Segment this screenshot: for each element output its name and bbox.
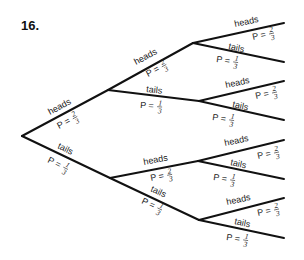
svg-text:heads: heads (223, 133, 250, 148)
prob-th-tails-3: P = 1 3 (212, 169, 236, 189)
label-tt-heads-3: heads (225, 192, 252, 207)
svg-text:3: 3 (157, 106, 163, 115)
svg-text:3: 3 (242, 239, 248, 249)
label-th-heads-3: heads (223, 133, 250, 148)
svg-text:P =: P = (144, 64, 161, 79)
svg-text:tails: tails (228, 41, 246, 54)
svg-text:P =: P = (213, 172, 228, 184)
prob-ht-tails-3: P = 1 3 (211, 109, 235, 129)
label-hh-tails-3: tails (228, 41, 246, 54)
prob-h-tails-2: P = 1 3 (140, 97, 163, 115)
svg-text:3: 3 (232, 61, 238, 71)
label-ht-heads-3: heads (224, 75, 251, 90)
probability-tree-diagram: 16. heads P = 2 3 tails P = 1 3 heads P … (0, 0, 304, 260)
svg-text:3: 3 (272, 91, 279, 101)
svg-text:P =: P = (149, 171, 164, 183)
svg-text:3: 3 (229, 179, 235, 189)
svg-text:3: 3 (162, 64, 171, 74)
svg-text:heads: heads (225, 192, 252, 207)
svg-text:P =: P = (140, 100, 154, 111)
problem-number: 16. (21, 18, 39, 33)
svg-text:heads: heads (46, 96, 73, 117)
label-hh-heads-3: heads (233, 14, 260, 29)
svg-text:P =: P = (46, 155, 63, 170)
svg-text:heads: heads (233, 14, 260, 29)
svg-text:P =: P = (254, 88, 269, 101)
label-h-tails-2: tails (146, 84, 163, 96)
svg-text:3: 3 (274, 208, 281, 218)
svg-text:3: 3 (167, 174, 174, 184)
svg-text:3: 3 (228, 119, 234, 129)
svg-text:3: 3 (269, 32, 276, 42)
svg-text:P =: P = (216, 54, 231, 66)
prob-hh-tails-3: P = 1 3 (215, 51, 239, 71)
svg-text:P =: P = (226, 232, 241, 244)
label-t-heads-2: heads (142, 152, 168, 167)
svg-text:P =: P = (256, 148, 271, 161)
svg-text:heads: heads (142, 152, 168, 167)
svg-text:3: 3 (154, 207, 162, 217)
svg-text:tails: tails (146, 84, 163, 96)
label-ht-tails-3: tails (232, 99, 250, 112)
svg-text:P =: P = (256, 205, 271, 218)
svg-text:3: 3 (274, 151, 281, 161)
svg-text:heads: heads (224, 75, 251, 90)
prob-tt-tails-3: P = 1 3 (225, 229, 249, 249)
svg-text:3: 3 (60, 167, 68, 177)
prob-tails-1: P = 1 3 (44, 152, 71, 177)
svg-text:P =: P = (251, 29, 266, 42)
svg-text:P =: P = (212, 112, 227, 124)
svg-text:3: 3 (73, 116, 82, 126)
label-heads-1: heads (46, 96, 73, 117)
svg-text:tails: tails (232, 99, 250, 112)
